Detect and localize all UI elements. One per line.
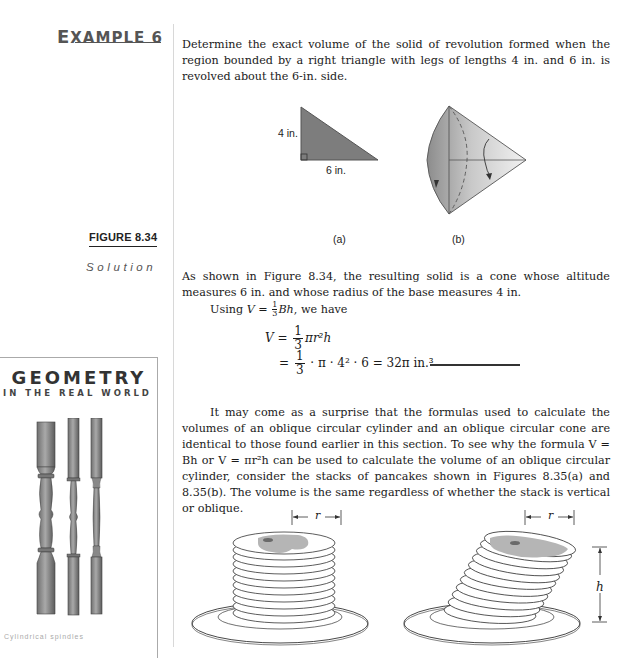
vertical-pancake-stack-figure <box>180 505 390 647</box>
leg-4in-label: 4 in. <box>278 127 298 139</box>
sidebar-subtitle: IN THE REAL WORLD <box>0 388 155 398</box>
sidebar-caption: Cylindrical spindles <box>4 633 84 640</box>
solution-text: As shown in Figure 8.34, the resulting s… <box>182 269 610 318</box>
example-heading-rule <box>75 42 161 43</box>
height-label-b: h <box>596 580 604 594</box>
solution-label: Solution <box>86 261 156 273</box>
radius-label-b: r <box>548 509 553 522</box>
radius-label-a: r <box>315 509 320 522</box>
cone-figure <box>425 102 535 220</box>
column-divider <box>173 24 174 647</box>
one-third-fraction: 13 <box>272 301 277 318</box>
figure-8-34-label: FIGURE 8.34 <box>89 231 157 247</box>
discussion-paragraph: It may come as a surprise that the formu… <box>182 405 610 517</box>
equation-line-2: = 13 · π · 4² · 6 = 32π in.³ <box>279 350 434 377</box>
leg-6in-label: 6 in. <box>326 164 346 176</box>
balusters-image <box>25 418 115 628</box>
equation-line-1: V = 13πr²h <box>265 325 331 352</box>
figure-b-label: (b) <box>452 233 465 245</box>
example-heading: EXAMPLE 6 <box>57 26 163 47</box>
example-problem-text: Determine the exact volume of the solid … <box>182 37 610 85</box>
oblique-pancake-stack-figure <box>392 505 617 647</box>
end-of-example-rule <box>430 364 520 366</box>
figure-a-label: (a) <box>333 233 346 245</box>
sidebar-title: GEOMETRY <box>4 367 154 388</box>
right-triangle-figure <box>250 100 380 175</box>
